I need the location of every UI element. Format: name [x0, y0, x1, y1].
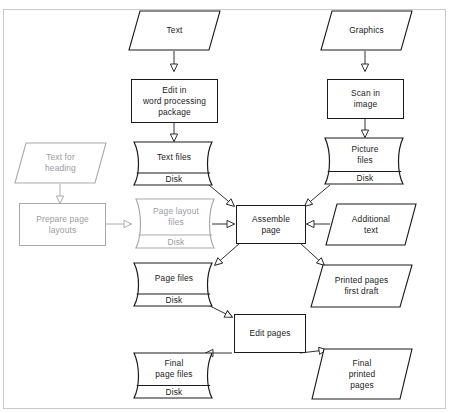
node-label: Picturefiles — [347, 144, 382, 166]
node-label: Printed pagesfirst draft — [331, 275, 393, 297]
node-assemble-page[interactable]: Assemblepage — [236, 205, 306, 244]
node-label: Text forheading — [41, 152, 80, 174]
node-additional-text[interactable]: Additionaltext — [325, 203, 417, 246]
flowchart-canvas: Text Graphics Edit inword processingpack… — [0, 0, 449, 413]
node-picture-files[interactable]: Picturefiles Disk — [317, 137, 413, 185]
node-page-files[interactable]: Page files Disk — [126, 262, 222, 307]
node-printed-pages-first-draft[interactable]: Printed pagesfirst draft — [310, 264, 413, 308]
node-text-input[interactable]: Text — [128, 10, 221, 51]
node-label: Edit inword processingpackage — [139, 85, 210, 118]
node-label: Graphics — [345, 25, 388, 36]
node-page-layout-files[interactable]: Page layoutfiles Disk — [128, 198, 224, 249]
node-graphics-input[interactable]: Graphics — [320, 10, 413, 51]
node-label: Text files — [153, 152, 195, 163]
node-prepare-page-layouts[interactable]: Prepare pagelayouts — [19, 203, 106, 246]
node-label: Finalprintedpages — [345, 358, 380, 391]
node-label: Page files — [151, 273, 197, 284]
node-text-for-heading[interactable]: Text forheading — [14, 142, 107, 184]
node-media-label: Disk — [317, 173, 413, 184]
node-text-files[interactable]: Text files Disk — [126, 141, 222, 186]
node-label: Prepare pagelayouts — [32, 214, 93, 236]
node-edit-word-processing[interactable]: Edit inword processingpackage — [131, 79, 218, 123]
node-label: Additionaltext — [348, 214, 394, 236]
node-final-printed-pages[interactable]: Finalprintedpages — [311, 348, 413, 400]
node-media-label: Disk — [126, 295, 222, 306]
node-media-label: Disk — [126, 387, 222, 398]
node-label: Text — [163, 25, 187, 36]
node-label: Page layoutfiles — [149, 206, 203, 228]
node-edit-pages[interactable]: Edit pages — [234, 314, 306, 353]
node-final-page-files[interactable]: Finalpage files Disk — [126, 352, 222, 399]
node-label: Edit pages — [245, 328, 294, 339]
node-label: Assemblepage — [248, 214, 294, 236]
node-media-label: Disk — [126, 174, 222, 185]
node-scan-in-image[interactable]: Scan inimage — [327, 79, 404, 119]
page-header-fragment — [4, 0, 124, 7]
node-label: Finalpage files — [151, 358, 196, 380]
node-media-label: Disk — [128, 237, 224, 248]
node-label: Scan inimage — [347, 88, 384, 110]
